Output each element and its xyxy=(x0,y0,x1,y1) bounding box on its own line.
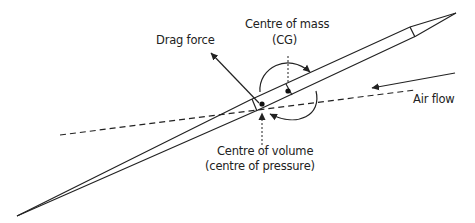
rotation-arrow-top xyxy=(260,63,310,92)
flight-path-dashed-line xyxy=(60,90,415,135)
centre-of-volume-label-line2: (centre of pressure) xyxy=(205,159,315,173)
centre-of-mass-label-line2: (CG) xyxy=(272,33,297,47)
centre-of-volume-label-line1: Centre of volume xyxy=(217,144,313,158)
drag-force-label: Drag force xyxy=(156,33,215,47)
drag-force-arrow xyxy=(211,53,259,103)
centre-of-mass-dot xyxy=(285,88,290,93)
air-flow-label: Air flow xyxy=(413,92,455,106)
air-flow-arrow xyxy=(372,73,455,88)
centre-of-pressure-dot xyxy=(259,101,264,106)
centre-of-mass-label-line1: Centre of mass xyxy=(245,17,329,31)
diagram-canvas xyxy=(0,0,475,223)
rocket-body xyxy=(17,13,456,216)
rocket-stability-diagram: Drag force Centre of mass (CG) Air flow … xyxy=(0,0,475,223)
